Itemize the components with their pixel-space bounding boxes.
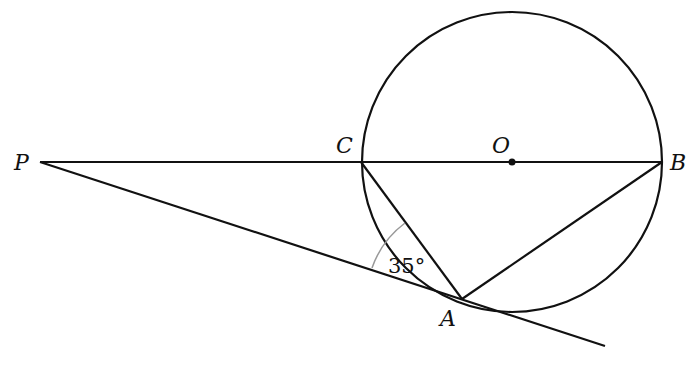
label-p: P bbox=[13, 150, 30, 175]
center-point-o bbox=[509, 159, 516, 166]
chord-ab bbox=[462, 162, 662, 299]
geometry-diagram: P C O B A 35° bbox=[0, 0, 692, 368]
label-a: A bbox=[438, 306, 456, 331]
label-c: C bbox=[336, 133, 353, 158]
label-o: O bbox=[492, 133, 510, 158]
angle-label: 35° bbox=[388, 254, 425, 278]
chord-ca bbox=[361, 162, 462, 299]
label-b: B bbox=[669, 150, 686, 175]
tangent-line-pa bbox=[40, 162, 605, 346]
